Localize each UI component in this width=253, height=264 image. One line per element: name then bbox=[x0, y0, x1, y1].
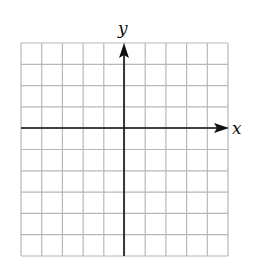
coordinate-grid: x y bbox=[0, 0, 253, 264]
y-axis-label: y bbox=[117, 18, 128, 38]
x-axis-label: x bbox=[232, 118, 242, 138]
